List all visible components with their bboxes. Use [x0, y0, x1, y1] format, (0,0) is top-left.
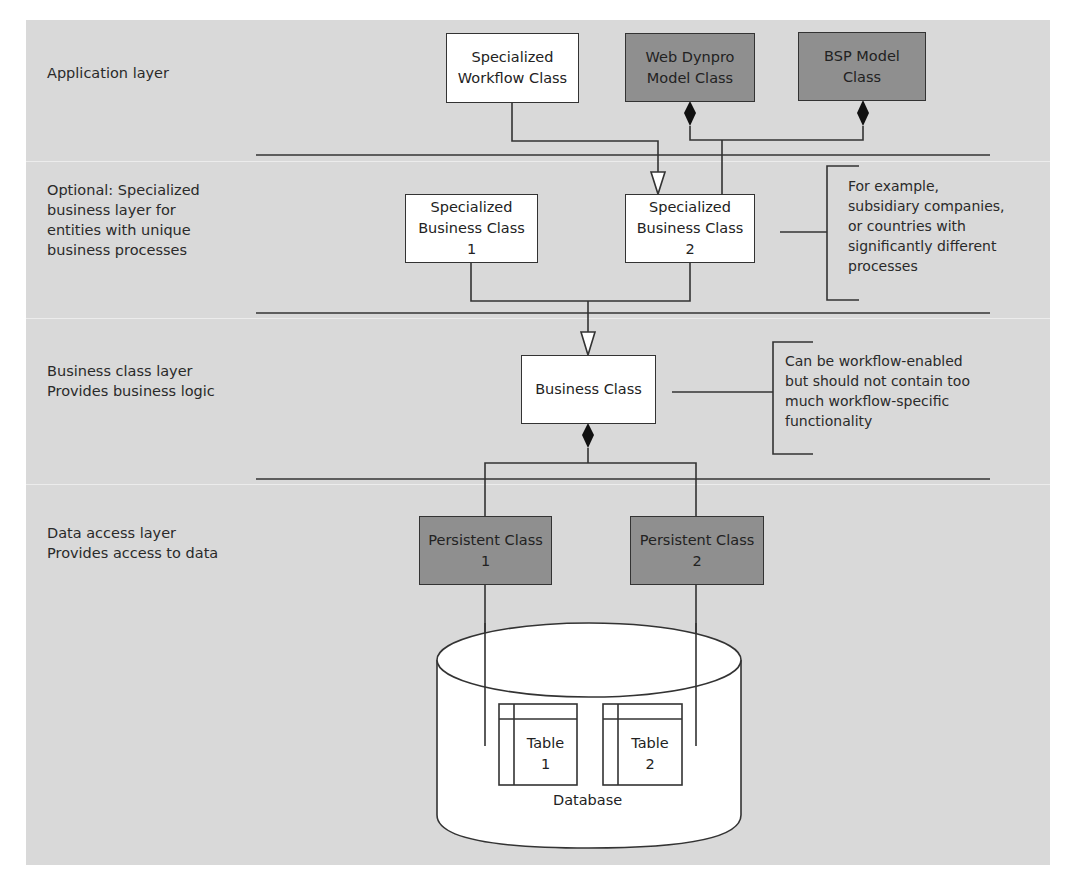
class-specialized-business-2: Specialized Business Class 2: [625, 194, 755, 263]
class-specialized-business-1: Specialized Business Class 1: [405, 194, 538, 263]
class-business: Business Class: [521, 355, 656, 424]
class-persistent-2: Persistent Class 2: [630, 516, 764, 585]
table-2-label: Table 2: [618, 733, 682, 775]
composition-diamond-icon: [684, 101, 696, 126]
table-1-label: Table 1: [514, 733, 577, 775]
composition-diamond-icon: [582, 423, 594, 448]
note-specialized-business: For example, subsidiary companies, or co…: [848, 176, 1005, 276]
class-bsp-model: BSP Model Class: [798, 32, 926, 101]
class-web-dynpro-model: Web Dynpro Model Class: [625, 33, 755, 102]
class-specialized-workflow: Specialized Workflow Class: [446, 33, 579, 103]
generalization-arrow-icon: [581, 332, 595, 355]
generalization-arrow-icon: [651, 172, 665, 194]
database-label: Database: [553, 792, 622, 808]
note-business-class: Can be workflow-enabled but should not c…: [785, 351, 970, 431]
class-persistent-1: Persistent Class 1: [419, 516, 552, 585]
composition-diamond-icon: [857, 100, 869, 126]
